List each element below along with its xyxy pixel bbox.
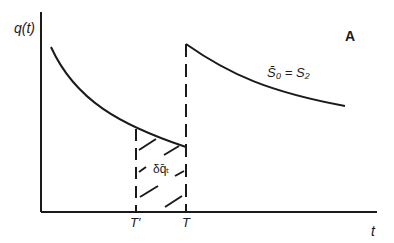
decay-curve-right	[186, 44, 345, 106]
tick-label-t-prime: T′	[130, 215, 140, 230]
y-axis-label: q(t)	[14, 20, 35, 36]
diagram-canvas	[0, 0, 394, 243]
region-label: δq̄ₜ	[153, 162, 170, 176]
x-axis-label: t	[371, 223, 375, 239]
tick-label-t: T	[182, 215, 190, 230]
curve-label: S̄₀ = S₂	[267, 65, 310, 80]
decay-curve-left	[51, 47, 186, 147]
panel-label: A	[345, 28, 355, 44]
